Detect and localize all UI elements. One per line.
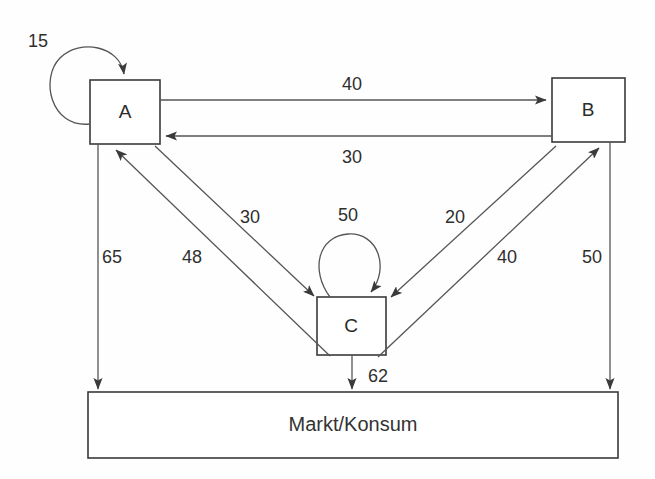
node-a[interactable]: A (90, 80, 160, 144)
node-c-label: C (344, 315, 358, 336)
flow-label-c-to-b: 40 (497, 247, 517, 267)
flow-label-b-to-markt: 50 (582, 247, 602, 267)
flow-label-c-to-markt: 62 (368, 366, 388, 386)
flow-c-to-b-arrow (378, 148, 599, 357)
node-b-label: B (582, 99, 595, 120)
node-a-label: A (119, 101, 132, 122)
markt-konsum-label: Markt/Konsum (289, 413, 418, 435)
flow-a-to-c-arrow (155, 146, 314, 296)
flow-label-b-to-c: 20 (445, 207, 465, 227)
node-b[interactable]: B (552, 78, 625, 142)
flow-label-a-to-markt: 65 (102, 247, 122, 267)
flow-c-to-a-arrow (116, 150, 330, 356)
flow-label-a-to-b: 40 (342, 74, 362, 94)
flow-label-c-self: 50 (338, 205, 358, 225)
node-c[interactable]: C (317, 297, 386, 355)
flow-c-self-arrow (319, 234, 380, 297)
flow-b-to-c-arrow (391, 146, 556, 297)
flow-label-b-to-a: 30 (342, 147, 362, 167)
diagram-canvas: A B C Markt/Konsum (0, 0, 655, 479)
flow-label-a-to-c: 30 (240, 207, 260, 227)
material-flow-diagram: A B C Markt/Konsum (0, 0, 655, 479)
node-markt-konsum[interactable]: Markt/Konsum (88, 392, 618, 458)
flow-label-c-to-a: 48 (182, 247, 202, 267)
flow-label-a-self: 15 (28, 31, 48, 51)
